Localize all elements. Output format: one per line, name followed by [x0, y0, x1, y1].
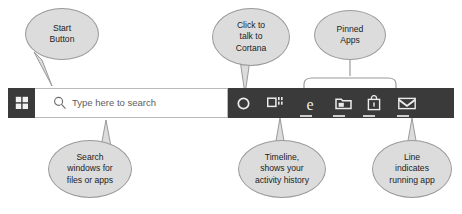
callout-timeline: Timeline, shows your activity history: [238, 140, 326, 198]
callout-running-line1: Line: [383, 152, 440, 164]
search-icon: [53, 96, 67, 110]
start-button[interactable]: [8, 88, 35, 118]
svg-text:e: e: [306, 95, 313, 112]
running-indicator-store: [363, 115, 375, 117]
running-indicator-edge: [300, 115, 312, 117]
callout-search-line1: Search: [61, 152, 119, 164]
folder-icon: [335, 96, 352, 110]
callout-running-app: Line indicates running app: [372, 140, 452, 198]
callout-pinned-line2: Apps: [331, 35, 370, 47]
edge-e-icon: e: [302, 95, 318, 112]
taskbar-annotated-diagram: Start Button Click to talk to Cortana Pi…: [0, 0, 462, 214]
callout-cortana-line1: Click to: [230, 20, 273, 32]
callout-search-line3: files or apps: [61, 175, 119, 187]
callout-timeline-line2: shows your: [249, 163, 315, 175]
store-button[interactable]: [361, 88, 387, 118]
callout-search-line2: windows for: [61, 163, 119, 175]
task-view-button[interactable]: [262, 88, 288, 118]
mail-button[interactable]: [394, 88, 420, 118]
windows-logo-icon: [15, 96, 29, 110]
edge-button[interactable]: e: [297, 88, 323, 118]
callout-search: Search windows for files or apps: [48, 140, 132, 198]
callout-pinned-apps: Pinned Apps: [314, 10, 386, 60]
running-indicator-mail: [397, 115, 409, 117]
shopping-bag-icon: [367, 95, 381, 111]
envelope-icon: [398, 97, 416, 110]
callout-cortana-line2: talk to: [230, 31, 273, 43]
callout-running-line3: running app: [383, 175, 440, 187]
callout-cortana-line3: Cortana: [230, 43, 273, 55]
callout-start-button: Start Button: [25, 8, 99, 60]
file-explorer-button[interactable]: [330, 88, 356, 118]
callout-timeline-line1: Timeline,: [249, 152, 315, 164]
callout-running-line2: indicates: [383, 163, 440, 175]
callout-start-line1: Start: [44, 23, 81, 35]
callout-start-line2: Button: [44, 34, 81, 46]
callout-timeline-line3: activity history: [249, 175, 315, 187]
cortana-circle-icon: [236, 96, 251, 111]
search-placeholder: Type here to search: [72, 88, 156, 118]
task-view-icon: [267, 96, 284, 110]
callout-cortana: Click to talk to Cortana: [212, 8, 290, 66]
callout-pinned-line1: Pinned: [331, 24, 370, 36]
running-indicator-explorer: [333, 115, 345, 117]
taskbar: Type here to search e: [8, 88, 454, 118]
cortana-button[interactable]: [230, 88, 256, 118]
